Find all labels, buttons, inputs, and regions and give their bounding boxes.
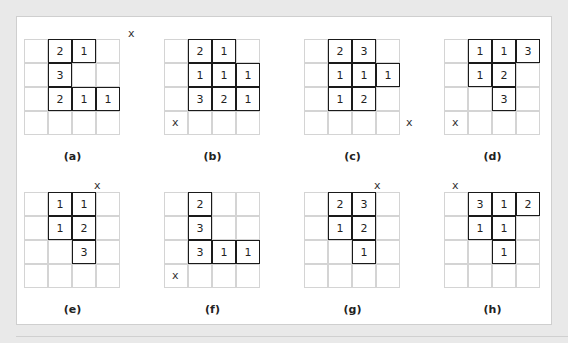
- grid-cell-filled: 3: [188, 240, 212, 264]
- grid-cell-empty: [376, 111, 400, 135]
- grid-cell-empty: [236, 264, 260, 288]
- grid-cell-empty: [468, 111, 492, 135]
- figure-label: (c): [304, 150, 401, 163]
- grid-cell-empty: [444, 87, 468, 111]
- grid-cell-filled: 1: [212, 63, 236, 87]
- divider: [16, 336, 568, 337]
- grid-cell-empty: [352, 111, 376, 135]
- grid-cell-empty: [376, 192, 400, 216]
- grid-cell-empty: [444, 63, 468, 87]
- grid-cell-filled: 2: [48, 39, 72, 63]
- grid-cell-empty: [24, 216, 48, 240]
- grid-cell-filled: 3: [188, 216, 212, 240]
- grid: 11123: [24, 192, 121, 289]
- grid-cell-filled: 3: [352, 192, 376, 216]
- grid-cell-empty: [24, 240, 48, 264]
- grid-cell-filled: 2: [352, 87, 376, 111]
- grid-cell-empty: [304, 240, 328, 264]
- grid-cell-filled: 2: [72, 216, 96, 240]
- figure-d: 113123x(d): [444, 39, 568, 179]
- grid-cell-empty: [48, 240, 72, 264]
- grid-cell-empty: [24, 63, 48, 87]
- grid-cell-empty: [96, 192, 120, 216]
- grid-cell-empty: [212, 111, 236, 135]
- grid-cell-filled: 2: [492, 63, 516, 87]
- grid: 2311112: [304, 39, 401, 136]
- figure-c: 2311112x(c): [304, 39, 434, 179]
- grid-cell-empty: [468, 87, 492, 111]
- grid-cell-empty: [236, 111, 260, 135]
- grid-cell-filled: 3: [468, 192, 492, 216]
- figure-b: 21111321x(b): [164, 39, 294, 179]
- grid-cell-filled: 1: [212, 39, 236, 63]
- grid-cell-filled: 1: [352, 63, 376, 87]
- grid-cell-empty: [328, 111, 352, 135]
- grid-cell-empty: [444, 216, 468, 240]
- grid-cell-filled: 1: [492, 216, 516, 240]
- grid-cell-filled: 1: [468, 39, 492, 63]
- grid-cell-empty: [444, 39, 468, 63]
- grid-cell-filled: 3: [188, 87, 212, 111]
- figure-label: (e): [24, 303, 121, 316]
- grid-cell-empty: [72, 264, 96, 288]
- grid-cell-empty: [304, 87, 328, 111]
- x-marker: x: [128, 27, 135, 40]
- x-marker: x: [374, 179, 381, 192]
- grid-cell-filled: 1: [212, 240, 236, 264]
- grid-cell-empty: [24, 87, 48, 111]
- grid-cell-empty: [96, 216, 120, 240]
- grid-cell-empty: [304, 63, 328, 87]
- grid-cell-empty: [516, 216, 540, 240]
- grid-cell-filled: 1: [328, 63, 352, 87]
- grid-cell-empty: [516, 111, 540, 135]
- grid-cell-empty: [236, 192, 260, 216]
- grid-cell-empty: [304, 192, 328, 216]
- grid-cell-empty: [444, 192, 468, 216]
- grid-cell-filled: 2: [48, 87, 72, 111]
- grid-cell-empty: [164, 39, 188, 63]
- grid-cell-filled: 2: [188, 192, 212, 216]
- grid-cell-filled: 1: [492, 192, 516, 216]
- grid-cell-empty: [492, 111, 516, 135]
- grid-cell-empty: [236, 216, 260, 240]
- figure-g: 23121x(g): [304, 192, 434, 332]
- figure-a: 213211x(a): [24, 39, 154, 179]
- grid-cell-empty: [96, 63, 120, 87]
- grid-cell-empty: [188, 264, 212, 288]
- grid-cell-empty: [96, 39, 120, 63]
- x-marker: x: [452, 116, 459, 129]
- grid-cell-filled: 1: [96, 87, 120, 111]
- grid-cell-empty: [376, 264, 400, 288]
- grid-cell-filled: 1: [236, 63, 260, 87]
- grid-cell-empty: [376, 87, 400, 111]
- grid-cell-empty: [164, 240, 188, 264]
- figure-label: (d): [444, 150, 541, 163]
- figure-label: (a): [24, 150, 121, 163]
- figure-e: 11123x(e): [24, 192, 154, 332]
- figure-h: 312111x(h): [444, 192, 568, 332]
- grid-cell-empty: [492, 264, 516, 288]
- grid-cell-filled: 1: [48, 216, 72, 240]
- figure-label: (g): [304, 303, 401, 316]
- grid-cell-empty: [468, 240, 492, 264]
- grid-cell-empty: [96, 240, 120, 264]
- grid-cell-empty: [376, 240, 400, 264]
- grid-cell-empty: [164, 216, 188, 240]
- grid-cell-empty: [516, 87, 540, 111]
- grid-cell-filled: 1: [376, 63, 400, 87]
- x-marker: x: [406, 116, 413, 129]
- x-marker: x: [172, 116, 179, 129]
- grid-cell-filled: 1: [188, 63, 212, 87]
- grid-cell-empty: [304, 264, 328, 288]
- grid-cell-empty: [516, 264, 540, 288]
- grid-cell-empty: [212, 192, 236, 216]
- grid-cell-empty: [24, 39, 48, 63]
- grid-cell-filled: 2: [328, 39, 352, 63]
- grid-cell-filled: 1: [236, 240, 260, 264]
- x-marker: x: [172, 269, 179, 282]
- figure-label: (b): [164, 150, 261, 163]
- grid-cell-empty: [96, 111, 120, 135]
- grid-cell-empty: [328, 240, 352, 264]
- grid-cell-empty: [188, 111, 212, 135]
- grid-cell-filled: 1: [328, 87, 352, 111]
